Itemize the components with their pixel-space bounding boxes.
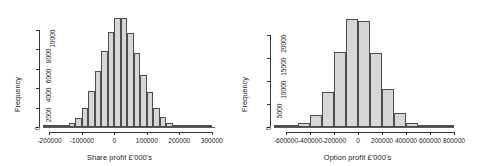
y-axis-tick-label: 10000 [49, 29, 56, 47]
y-axis-tick-label: 15000 [280, 57, 287, 75]
x-axis-title-share: Share profit £'000's [0, 153, 239, 162]
x-axis-tick [179, 132, 180, 135]
y-axis-line [39, 30, 40, 127]
x-axis-tick [212, 132, 213, 135]
y-axis-tick [36, 88, 39, 89]
x-axis-tick [82, 132, 83, 135]
y-axis-tick-label: 8000 [45, 49, 52, 64]
baseline [43, 127, 215, 128]
y-axis-line [270, 35, 271, 127]
histogram-share-profit: 0200040006000800010000-200000-1000000100… [0, 0, 239, 166]
x-axis-tick [114, 132, 115, 135]
axes-share: 0200040006000800010000-200000-1000000100… [0, 0, 239, 166]
figure-container: 0200040006000800010000-200000-1000000100… [0, 0, 477, 166]
y-axis-tick-label: 4000 [45, 88, 52, 103]
x-axis-tick [310, 132, 311, 135]
x-axis-tick [147, 132, 148, 135]
x-axis-tick-label: 300000 [201, 137, 223, 144]
x-axis-tick [406, 132, 407, 135]
x-axis-tick [454, 132, 455, 135]
y-axis-tick [267, 81, 270, 82]
x-axis-tick-label: -200000 [322, 137, 346, 144]
x-axis-tick-label: 600000 [419, 137, 441, 144]
x-axis-tick-label: 200000 [371, 137, 393, 144]
y-axis-tick-label: 20000 [280, 34, 287, 52]
x-axis-tick-label: 0 [356, 137, 360, 144]
y-axis-tick-label: 0 [265, 127, 272, 131]
x-axis-tick-label: -200000 [37, 137, 61, 144]
y-axis-title-option: Frequency [240, 77, 249, 112]
y-axis-tick [267, 104, 270, 105]
y-axis-tick-label: 10000 [280, 80, 287, 98]
y-axis-tick [267, 35, 270, 36]
y-axis-tick [267, 58, 270, 59]
y-axis-tick [36, 108, 39, 109]
x-axis-tick [430, 132, 431, 135]
y-axis-tick-label: 5000 [276, 103, 283, 118]
x-axis-tick-label: 200000 [168, 137, 190, 144]
x-axis-tick [49, 132, 50, 135]
x-axis-title-option: Option profit £'000's [238, 153, 477, 162]
y-axis-tick [36, 49, 39, 50]
x-axis-tick-label: -600000 [274, 137, 298, 144]
histogram-option-profit: 05000100001500020000-600000-400000-20000… [238, 0, 477, 166]
baseline [274, 127, 454, 128]
y-axis-tick [36, 69, 39, 70]
x-axis-tick [358, 132, 359, 135]
y-axis-tick [36, 30, 39, 31]
x-axis-tick-label: 0 [113, 137, 117, 144]
x-axis-tick-label: 100000 [136, 137, 158, 144]
x-axis-tick-label: 400000 [395, 137, 417, 144]
y-axis-title-share: Frequency [13, 77, 22, 112]
x-axis-line [286, 132, 454, 133]
x-axis-tick-label: -100000 [70, 137, 94, 144]
y-axis-tick-label: 2000 [45, 107, 52, 122]
x-axis-tick [286, 132, 287, 135]
x-axis-tick-label: -400000 [298, 137, 322, 144]
x-axis-tick [382, 132, 383, 135]
y-axis-tick-label: 0 [34, 127, 41, 131]
x-axis-tick [334, 132, 335, 135]
x-axis-line [49, 132, 211, 133]
axes-option: 05000100001500020000-600000-400000-20000… [238, 0, 477, 166]
x-axis-tick-label: 800000 [443, 137, 465, 144]
y-axis-tick-label: 6000 [45, 68, 52, 83]
